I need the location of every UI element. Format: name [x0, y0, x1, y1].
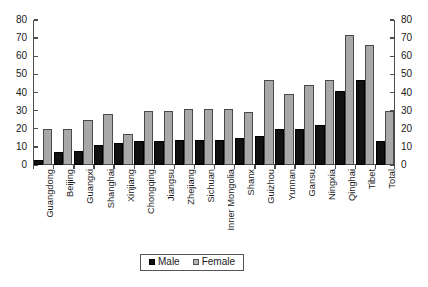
- y-tick-label-left: 60: [3, 51, 27, 61]
- legend-label-female: Female: [202, 257, 235, 267]
- bar-male: [335, 91, 344, 165]
- x-tick-mark: [335, 165, 336, 169]
- bar-male: [235, 138, 244, 165]
- x-tick-mark: [154, 165, 155, 169]
- x-tick-mark: [355, 165, 356, 169]
- bar-female: [284, 94, 293, 165]
- x-axis-label: Shanx: [247, 169, 256, 195]
- bar-group: [355, 20, 375, 165]
- y-tick-label-right: 40: [401, 88, 425, 98]
- legend-swatch-male-icon: [149, 259, 155, 265]
- bar-male: [255, 136, 264, 165]
- x-tick-mark: [234, 165, 235, 169]
- bar-male: [74, 151, 83, 166]
- x-axis-label: Tibet: [368, 169, 377, 189]
- x-axis-label: Ningxia: [328, 169, 337, 200]
- bar-female: [244, 112, 253, 165]
- bar-group: [234, 20, 254, 165]
- bar-male: [275, 129, 284, 165]
- bar-male: [175, 140, 184, 165]
- x-axis-label: Sichuan: [207, 169, 216, 203]
- x-tick-mark: [375, 165, 376, 169]
- x-axis-label: Beijing: [66, 169, 75, 197]
- y-tick-label-left: 80: [3, 15, 27, 25]
- y-tick-label-right: 60: [401, 51, 425, 61]
- x-tick-mark: [394, 165, 395, 169]
- bar-female: [184, 109, 193, 165]
- x-axis-label: Guangxi: [86, 169, 95, 204]
- bar-female: [345, 35, 354, 166]
- y-tick-label-right: 70: [401, 33, 425, 43]
- bar-male: [134, 141, 143, 165]
- bar-group: [294, 20, 314, 165]
- bar-group: [315, 20, 335, 165]
- bar-male: [376, 141, 385, 165]
- bar-female: [224, 109, 233, 165]
- bar-group: [375, 20, 395, 165]
- x-axis-label: Qinghai: [348, 169, 357, 201]
- bar-male: [114, 143, 123, 165]
- bar-female: [83, 120, 92, 165]
- bar-group: [113, 20, 133, 165]
- chart-legend: Male Female: [140, 254, 244, 271]
- bar-group: [134, 20, 154, 165]
- x-axis-label: Yunnan: [288, 169, 297, 201]
- x-tick-mark: [33, 165, 34, 169]
- x-tick-mark: [113, 165, 114, 169]
- x-axis-label: Guizhou: [267, 169, 276, 204]
- x-axis-label: Inner Mongolia: [227, 169, 236, 231]
- bar-female: [63, 129, 72, 165]
- x-axis-label: Jiangsu: [167, 169, 176, 201]
- y-tick-label-left: 40: [3, 88, 27, 98]
- bar-male: [54, 152, 63, 165]
- bar-group: [174, 20, 194, 165]
- bar-female: [164, 111, 173, 165]
- bar-male: [215, 140, 224, 165]
- x-tick-mark: [134, 165, 135, 169]
- x-tick-mark: [73, 165, 74, 169]
- bar-female: [43, 129, 52, 165]
- bar-male: [195, 140, 204, 165]
- bar-female: [365, 45, 374, 165]
- y-tick-label-left: 0: [3, 160, 27, 170]
- bar-group: [254, 20, 274, 165]
- bar-female: [304, 85, 313, 165]
- bar-male: [315, 125, 324, 165]
- y-tick-label-right: 50: [401, 69, 425, 79]
- y-tick-label-right: 0: [401, 160, 425, 170]
- bar-female: [103, 114, 112, 165]
- x-axis-label: Total: [388, 169, 397, 189]
- legend-item-female: Female: [193, 257, 235, 267]
- bar-group: [73, 20, 93, 165]
- bar-group: [214, 20, 234, 165]
- x-tick-mark: [214, 165, 215, 169]
- y-tick-label-left: 10: [3, 142, 27, 152]
- y-tick-label-right: 30: [401, 106, 425, 116]
- bar-group: [53, 20, 73, 165]
- x-tick-mark: [315, 165, 316, 169]
- bar-female: [204, 109, 213, 165]
- x-axis-label: Chongqing: [147, 169, 156, 214]
- legend-item-male: Male: [149, 257, 180, 267]
- bar-chart: 01020304050607080 01020304050607080 Guan…: [0, 0, 428, 287]
- bar-female: [325, 80, 334, 165]
- legend-swatch-female-icon: [193, 259, 199, 265]
- y-tick-label-left: 70: [3, 33, 27, 43]
- bar-male: [34, 160, 43, 165]
- x-tick-mark: [53, 165, 54, 169]
- x-axis-label: Shanghai: [107, 169, 116, 208]
- legend-label-male: Male: [158, 257, 180, 267]
- x-tick-mark: [254, 165, 255, 169]
- y-tick-label-left: 20: [3, 124, 27, 134]
- x-axis-label: Zhejiang: [187, 169, 196, 205]
- x-tick-mark: [93, 165, 94, 169]
- bar-female: [385, 111, 394, 165]
- y-tick-label-left: 30: [3, 106, 27, 116]
- bar-group: [154, 20, 174, 165]
- x-tick-mark: [294, 165, 295, 169]
- x-tick-mark: [274, 165, 275, 169]
- x-axis-label: Xinjiang: [127, 169, 136, 202]
- bar-female: [123, 134, 132, 165]
- x-axis-label: Guangdong: [46, 169, 55, 218]
- bar-group: [33, 20, 53, 165]
